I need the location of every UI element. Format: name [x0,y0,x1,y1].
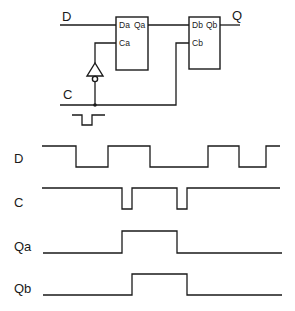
junction-dot-icon [93,103,97,107]
master-slave-flipflop-diagram: D Da Qa Ca Db Qb Cb Q [0,0,295,311]
waveform-d [42,146,280,167]
flipflop-a-d-pin: Da [119,20,130,30]
flipflop-b: Db Qb Cb [189,17,220,69]
clock-pulse-symbol-icon [72,115,105,125]
timing-diagram: D C Qa Qb [14,146,282,296]
waveform-c [42,188,280,209]
timing-label-qb: Qb [14,281,31,296]
inverter-bubble-icon [92,76,97,81]
flipflop-a: Da Qa Ca [116,17,148,70]
schematic: D Da Qa Ca Db Qb Cb Q [60,8,242,125]
ca-clock-wire [95,43,116,63]
timing-label-qa: Qa [14,239,32,254]
flipflop-b-c-pin: Cb [192,38,203,48]
waveform-qa [43,231,282,253]
d-input-label: D [62,9,71,24]
flipflop-a-q-pin: Qa [134,20,146,30]
waveform-qb [43,274,282,295]
flipflop-b-d-pin: Db [192,20,203,30]
flipflop-b-q-pin: Qb [206,20,218,30]
flipflop-a-c-pin: Ca [119,38,130,48]
timing-label-d: D [14,151,23,166]
q-output-label: Q [232,8,242,23]
c-input-label: C [63,87,72,102]
timing-label-c: C [14,195,23,210]
inverter-triangle-icon [87,63,103,76]
